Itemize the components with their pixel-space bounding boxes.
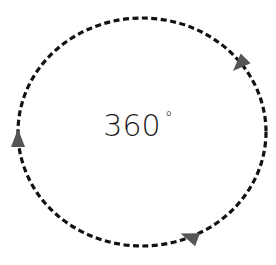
arrow-icon [178, 227, 200, 246]
angle-value: 360 [103, 108, 160, 143]
degree-symbol: ° [165, 108, 173, 127]
angle-label: 360° [0, 108, 276, 143]
